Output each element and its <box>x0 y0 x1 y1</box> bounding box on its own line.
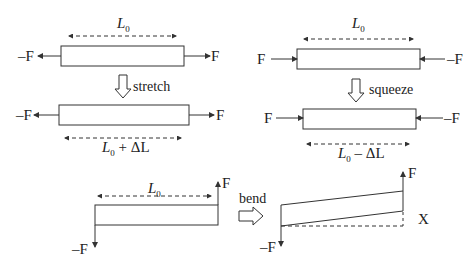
squeeze-right-force-label: –F <box>446 51 463 67</box>
stretch-bar-original <box>61 46 184 66</box>
squeeze-action-label: squeeze <box>369 82 413 97</box>
bend-deformed-down-force-label: –F <box>259 239 276 255</box>
squeeze-bottom-length-label: L0 – ΔL <box>337 145 385 164</box>
squeeze-left-force-label: F <box>257 51 265 67</box>
squeeze-bottom-right-force-label: –F <box>443 110 460 126</box>
bend-hollow-right-arrow-icon <box>239 207 263 225</box>
bend-deformed-up-force-label: F <box>408 165 416 181</box>
stretch-action-label: stretch <box>133 79 170 94</box>
stretch-hollow-down-arrow-icon <box>115 75 131 98</box>
stretch-right-force-label: F <box>211 48 219 64</box>
deformation-diagram: L0 –F F stretch –F F L0 + ΔL L0 F –F squ… <box>0 0 471 267</box>
bend-bar-deformed <box>281 191 403 226</box>
stretch-bottom-length-label: L0 + ΔL <box>101 139 150 158</box>
bend-deflection-label: X <box>418 211 429 227</box>
bend-down-force-label: –F <box>71 241 88 257</box>
bend-up-force-label: F <box>222 175 230 191</box>
stretch-bottom-left-force-label: –F <box>15 107 32 123</box>
stretch-top-length-label: L0 <box>116 15 130 34</box>
bend-deformed-panel: X F –F <box>259 165 429 255</box>
squeeze-top-length-label: L0 <box>351 15 365 34</box>
stretch-bottom-right-force-label: F <box>216 107 224 123</box>
stretch-left-force-label: –F <box>17 48 34 64</box>
squeeze-panel: L0 F –F squeeze F –F L0 – ΔL <box>257 15 463 164</box>
stretch-bar-stretched <box>59 105 189 125</box>
bend-original-panel: L0 F –F <box>71 175 230 257</box>
squeeze-hollow-down-arrow-icon <box>348 79 364 102</box>
bend-action: bend <box>239 191 266 225</box>
stretch-panel: L0 –F F stretch –F F L0 + ΔL <box>15 15 224 158</box>
bend-action-label: bend <box>239 191 266 206</box>
squeeze-bar-compressed <box>303 109 416 129</box>
bend-bar-original <box>95 205 218 225</box>
squeeze-bottom-left-force-label: F <box>264 110 272 126</box>
squeeze-bar-original <box>297 49 420 69</box>
